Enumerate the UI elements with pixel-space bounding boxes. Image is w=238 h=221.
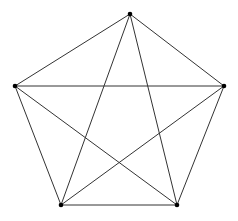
- node-right: [222, 84, 227, 89]
- edge-left-bottom-right: [15, 86, 177, 205]
- edge-right-bottom-left: [61, 86, 224, 205]
- node-bottom-left: [59, 203, 64, 208]
- edge-top-left: [15, 14, 130, 86]
- edges-group: [15, 14, 224, 205]
- edge-right-bottom-right: [177, 86, 224, 205]
- edge-left-bottom-left: [15, 86, 61, 205]
- node-bottom-right: [175, 203, 180, 208]
- edge-top-right: [130, 14, 224, 86]
- k5-graph-diagram: [0, 0, 238, 221]
- node-top: [128, 12, 133, 17]
- node-left: [13, 84, 18, 89]
- edge-top-bottom-right: [130, 14, 177, 205]
- nodes-group: [13, 12, 227, 208]
- edge-top-bottom-left: [61, 14, 130, 205]
